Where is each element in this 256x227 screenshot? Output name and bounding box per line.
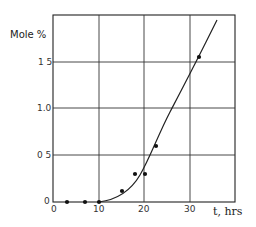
data-point <box>65 200 69 204</box>
chart-canvas: Mole % 1 5 1.0 0 5 0 0 10 20 30 t, hrs <box>0 0 256 227</box>
y-tick-1-0: 1.0 <box>37 103 52 113</box>
x-tick-30: 30 <box>184 204 196 214</box>
data-point <box>154 144 158 148</box>
fitted-curve <box>99 20 217 202</box>
y-tick-1-5: 1 5 <box>38 57 52 67</box>
x-tick-20: 20 <box>138 204 150 214</box>
x-tick-0: 0 <box>51 204 57 214</box>
data-point <box>143 172 147 176</box>
y-tick-0: 0 <box>44 196 50 206</box>
data-point <box>83 200 87 204</box>
y-tick-0-5: 0 5 <box>37 150 51 160</box>
data-point <box>133 172 137 176</box>
data-point <box>120 189 124 193</box>
x-tick-10: 10 <box>93 204 105 214</box>
data-point <box>197 55 201 59</box>
data-points <box>65 55 201 204</box>
x-axis-label: t, hrs <box>213 205 243 218</box>
y-axis-label: Mole % <box>10 29 46 40</box>
